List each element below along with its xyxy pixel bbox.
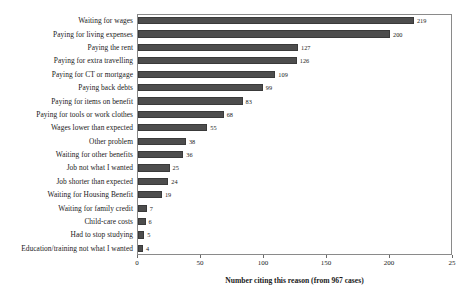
category-label: Paying the rent [0, 43, 133, 52]
bar [138, 30, 390, 37]
category-label: Paying for extra travelling [0, 56, 133, 65]
x-axis-tick [389, 255, 390, 258]
bar-row: Other problem38 [0, 135, 468, 148]
bar-value-label: 19 [165, 191, 171, 198]
bar-container: 127 [138, 41, 310, 54]
bar-chart: Problems encountered Waiting for wages21… [0, 0, 468, 298]
bar-row: Waiting for Housing Benefit19 [0, 188, 468, 201]
x-axis-tick-label: 100 [258, 259, 269, 267]
bar-container: 7 [138, 201, 153, 214]
bar-container: 200 [138, 27, 402, 40]
bar [138, 71, 275, 78]
x-axis-tick-label: 0 [135, 259, 139, 267]
bar-value-label: 109 [278, 71, 287, 78]
x-axis-tick [263, 255, 264, 258]
bar [138, 17, 414, 24]
bar [138, 151, 183, 158]
bar-row: Job shorter than expected24 [0, 175, 468, 188]
bar [138, 84, 263, 91]
category-label: Job not what I wanted [0, 163, 133, 172]
category-label: Waiting for family credit [0, 204, 133, 213]
bar [138, 191, 162, 198]
category-label: Paying for tools or work clothes [0, 110, 133, 119]
category-label: Had to stop studying [0, 230, 133, 239]
bar-value-label: 126 [300, 57, 309, 64]
bar-row: Job not what I wanted25 [0, 161, 468, 174]
x-axis-tick [326, 255, 327, 258]
x-axis-tick [200, 255, 201, 258]
x-axis: 05010015020025 [137, 255, 452, 277]
category-label: Education/training not what I wanted [0, 244, 133, 253]
bar-row: Paying for living expenses200 [0, 27, 468, 40]
bar-container: 83 [138, 94, 252, 107]
bar-value-label: 25 [173, 164, 179, 171]
bar [138, 138, 186, 145]
bar-container: 219 [138, 14, 426, 27]
x-axis-tick-label: 25 [449, 259, 456, 267]
bar-value-label: 99 [266, 84, 272, 91]
bar [138, 245, 143, 252]
bar-container: 36 [138, 148, 193, 161]
bar-row: Education/training not what I wanted4 [0, 242, 468, 255]
bar-container: 25 [138, 161, 179, 174]
bar-container: 99 [138, 81, 272, 94]
category-label: Paying for living expenses [0, 30, 133, 39]
bar-value-label: 5 [147, 231, 150, 238]
x-axis-tick-label: 50 [197, 259, 204, 267]
bar-row: Paying for items on benefit83 [0, 94, 468, 107]
bar-row: Waiting for family credit7 [0, 201, 468, 214]
bar-row: Wages lower than expected55 [0, 121, 468, 134]
bar-value-label: 4 [146, 245, 149, 252]
bar-value-label: 6 [149, 218, 152, 225]
bar-row: Waiting for wages219 [0, 14, 468, 27]
bar-row: Paying the rent127 [0, 41, 468, 54]
bar-value-label: 68 [227, 111, 233, 118]
bar-row: Waiting for other benefits36 [0, 148, 468, 161]
bar-container: 68 [138, 108, 233, 121]
bar [138, 124, 207, 131]
x-axis-tick-label: 150 [321, 259, 332, 267]
category-label: Other problem [0, 137, 133, 146]
category-label: Job shorter than expected [0, 177, 133, 186]
bar-container: 6 [138, 215, 152, 228]
bar-value-label: 219 [417, 17, 426, 24]
bar-row: Paying back debts99 [0, 81, 468, 94]
bar-row: Had to stop studying5 [0, 228, 468, 241]
bar [138, 57, 297, 64]
bar [138, 218, 146, 225]
bar-row: Paying for CT or mortgage109 [0, 68, 468, 81]
x-axis-tick-label: 200 [384, 259, 395, 267]
bar-row: Child-care costs6 [0, 215, 468, 228]
category-label: Wages lower than expected [0, 123, 133, 132]
category-label: Paying for items on benefit [0, 97, 133, 106]
bar-value-label: 127 [301, 44, 310, 51]
bar [138, 97, 243, 104]
bar [138, 231, 144, 238]
bar-container: 109 [138, 68, 288, 81]
bar-value-label: 36 [186, 151, 192, 158]
x-axis-tick [137, 255, 138, 258]
bar [138, 164, 170, 171]
bar-container: 126 [138, 54, 309, 67]
category-label: Waiting for wages [0, 16, 133, 25]
bar [138, 205, 147, 212]
bar-container: 19 [138, 188, 171, 201]
bar-container: 38 [138, 135, 195, 148]
bar-value-label: 200 [393, 31, 402, 38]
category-label: Paying back debts [0, 83, 133, 92]
category-label: Waiting for Housing Benefit [0, 190, 133, 199]
bar-value-label: 55 [210, 124, 216, 131]
category-label: Child-care costs [0, 217, 133, 226]
bar-container: 24 [138, 175, 178, 188]
bar [138, 111, 224, 118]
bar-row: Paying for tools or work clothes68 [0, 108, 468, 121]
bar-container: 5 [138, 228, 150, 241]
bar-container: 4 [138, 242, 149, 255]
category-label: Paying for CT or mortgage [0, 70, 133, 79]
category-label: Waiting for other benefits [0, 150, 133, 159]
bar-value-label: 24 [171, 178, 177, 185]
bar [138, 44, 298, 51]
page-corner-mark [2, 2, 10, 10]
bar-container: 55 [138, 121, 217, 134]
x-axis-tick [452, 255, 453, 258]
